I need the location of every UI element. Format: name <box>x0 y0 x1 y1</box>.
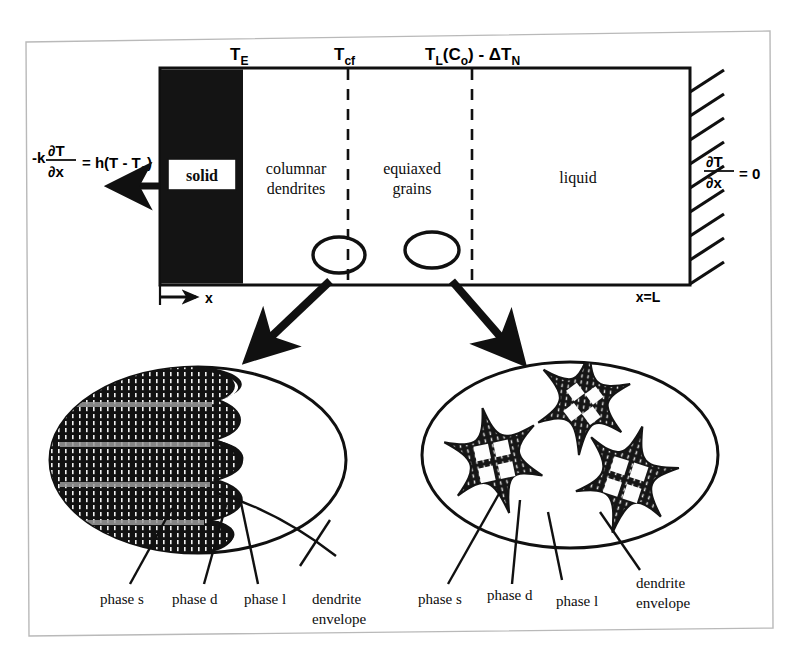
equiaxed-inset: phase s phase d phase l dendrite envelop… <box>418 346 718 611</box>
arrow-to-columnar-inset <box>252 281 330 355</box>
legend-left-phase-l: phase l <box>244 591 286 607</box>
legend-left-envelope-line2: envelope <box>312 611 366 627</box>
left-boundary-condition: -k ∂T ∂x = h(T - Ta) <box>32 142 160 186</box>
x-axis-label: x <box>205 290 213 306</box>
legend-right-phase-d: phase d <box>487 587 533 603</box>
zone-columnar-line1: columnar <box>266 160 327 177</box>
legend-right-phase-s: phase s <box>418 591 462 607</box>
legend-right-envelope-line1: dendrite <box>636 575 685 591</box>
columnar-inset: phase s phase d phase l dendrite envelop… <box>40 366 366 627</box>
bc-left-rhs: = h(T - Ta) <box>82 154 152 174</box>
zone-equiaxed-line2: grains <box>392 180 431 198</box>
bc-left-denominator: ∂x <box>48 163 64 180</box>
magnification-arrows <box>252 281 518 357</box>
solidification-diagram: solid columnar dendrites equiaxed grains… <box>0 0 796 658</box>
temp-marker-nucleation: TL(Co) - ΔTN <box>425 45 520 68</box>
bc-right-rhs: = 0 <box>739 165 760 182</box>
solid-label-box: solid <box>168 159 236 190</box>
legend-right-envelope-line2: envelope <box>636 595 690 611</box>
zone-equiaxed-line1: equiaxed <box>383 160 441 178</box>
x-axis: x x=L <box>160 285 661 306</box>
x-end-label: x=L <box>636 289 661 305</box>
zone-liquid-label: liquid <box>559 169 596 187</box>
right-boundary-condition: ∂T ∂x = 0 <box>690 70 760 284</box>
temperature-markers: TE Tcf TL(Co) - ΔTN <box>230 45 520 68</box>
temp-marker-eutectic: TE <box>230 45 248 68</box>
legend-right-phase-l: phase l <box>556 593 598 609</box>
arrow-to-equiaxed-inset <box>452 281 518 357</box>
solid-label: solid <box>186 167 218 184</box>
bc-left-lead: -k <box>32 149 46 166</box>
figure-canvas: solid columnar dendrites equiaxed grains… <box>0 0 796 658</box>
legend-left-phase-s: phase s <box>100 591 144 607</box>
bc-left-numerator: ∂T <box>48 142 65 159</box>
equiaxed-inset-legend: phase s phase d phase l dendrite envelop… <box>418 575 690 611</box>
columnar-inset-legend: phase s phase d phase l dendrite envelop… <box>100 591 366 627</box>
temp-marker-columnar-front: Tcf <box>334 45 356 68</box>
legend-left-phase-d: phase d <box>172 591 218 607</box>
legend-left-envelope-line1: dendrite <box>312 591 361 607</box>
zone-columnar-line2: dendrites <box>267 180 326 197</box>
columnar-microstructure <box>40 366 244 554</box>
